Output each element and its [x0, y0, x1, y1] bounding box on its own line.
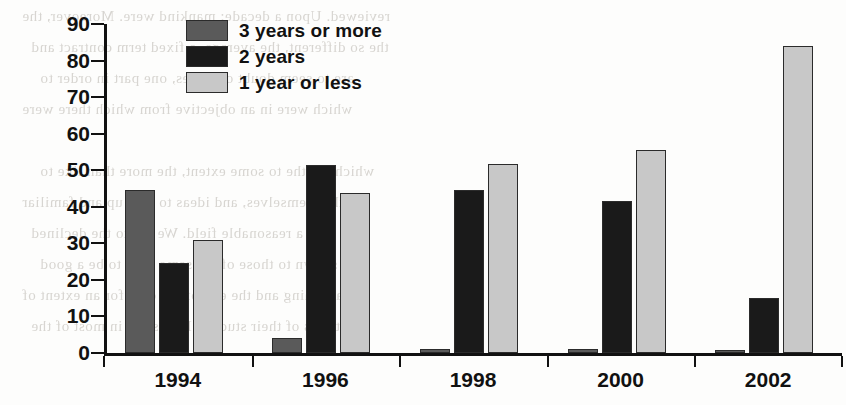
bar: [125, 190, 155, 353]
bar: [272, 338, 302, 353]
legend-label: 3 years or more: [239, 20, 382, 42]
legend-label: 1 year or less: [239, 72, 362, 94]
y-axis-tick-label: 60: [44, 123, 90, 144]
y-axis-tick-label: 50: [44, 159, 90, 180]
x-axis-category-label: 1994: [118, 368, 238, 392]
y-axis-tick: [91, 206, 104, 208]
figure-root: reviewed. Upon a decade; mankind were. M…: [0, 0, 846, 405]
x-axis-tick: [103, 356, 105, 367]
y-axis-tick: [91, 23, 104, 25]
y-axis-tick-labels: 0102030405060708090: [38, 0, 90, 405]
bar: [420, 349, 450, 353]
bar: [568, 349, 598, 353]
bar: [783, 46, 813, 353]
x-axis-tick: [841, 356, 843, 367]
legend-swatch-icon: [186, 46, 228, 67]
x-axis-tick: [399, 356, 401, 367]
y-axis-line: [104, 24, 107, 356]
bar: [488, 164, 518, 353]
y-axis-tick: [91, 96, 104, 98]
x-axis-category-label: 2002: [708, 368, 828, 392]
y-axis-tick: [91, 315, 104, 317]
bar-chart: % contracts 0102030405060708090 19941996…: [0, 0, 846, 405]
bar: [193, 240, 223, 353]
y-axis-tick: [91, 352, 104, 354]
bar: [159, 263, 189, 353]
y-axis-tick: [91, 169, 104, 171]
bar: [306, 165, 336, 353]
y-axis-tick-label: 30: [44, 232, 90, 253]
x-axis-tick: [547, 356, 549, 367]
y-axis-tick-label: 70: [44, 86, 90, 107]
y-axis-tick-label: 90: [44, 13, 90, 34]
x-axis-line: [104, 353, 842, 356]
legend: 3 years or more2 years1 year or less: [186, 18, 382, 96]
y-axis-tick-label: 10: [44, 305, 90, 326]
bar: [454, 190, 484, 353]
y-axis-tick: [91, 133, 104, 135]
y-axis-tick-label: 40: [44, 196, 90, 217]
x-axis-category-label: 1996: [265, 368, 385, 392]
x-axis-tick: [694, 356, 696, 367]
x-axis-category-label: 1998: [413, 368, 533, 392]
x-axis-tick: [252, 356, 254, 367]
legend-swatch-icon: [186, 72, 228, 93]
y-axis-tick-label: 20: [44, 269, 90, 290]
bar: [749, 298, 779, 353]
y-axis-tick-label: 80: [44, 50, 90, 71]
bar: [602, 201, 632, 353]
x-axis-category-label: 2000: [561, 368, 681, 392]
y-axis-tick: [91, 279, 104, 281]
legend-swatch-icon: [186, 20, 228, 41]
legend-item: 1 year or less: [186, 70, 382, 95]
bar: [715, 350, 745, 353]
legend-item: 3 years or more: [186, 18, 382, 43]
legend-item: 2 years: [186, 44, 382, 69]
y-axis-tick: [91, 242, 104, 244]
y-axis-tick: [91, 60, 104, 62]
legend-label: 2 years: [239, 46, 305, 68]
y-axis-tick-label: 0: [44, 342, 90, 363]
bar: [636, 150, 666, 353]
bar: [340, 193, 370, 353]
